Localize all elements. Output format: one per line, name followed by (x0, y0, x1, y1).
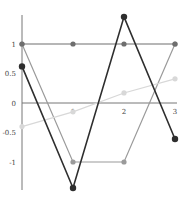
x-tick-label: 2 (122, 108, 126, 116)
series-2-point (172, 76, 177, 81)
series-4-point (121, 14, 127, 20)
y-tick-label: 0 (12, 100, 16, 108)
series-4-point (172, 136, 178, 142)
series-3-point (121, 41, 126, 46)
series-3-point (172, 41, 177, 46)
series-4-point (19, 63, 25, 69)
y-tick-label: 1 (12, 41, 16, 49)
y-tick-label: -1 (9, 159, 16, 167)
series-1-point (70, 159, 75, 164)
series-1-point (121, 159, 126, 164)
series-2-point (70, 109, 75, 114)
series-4-point (70, 185, 76, 191)
series-3-point (70, 41, 75, 46)
series-2-point (19, 124, 24, 129)
y-tick-label: -0.5 (3, 129, 17, 137)
line-chart: 12310.50-0.5-1 (0, 0, 189, 200)
series-3-point (19, 41, 24, 46)
y-tick-label: 0.5 (5, 70, 16, 78)
series-group (19, 14, 178, 192)
x-tick-label: 3 (173, 108, 177, 116)
series-2-point (121, 90, 126, 95)
